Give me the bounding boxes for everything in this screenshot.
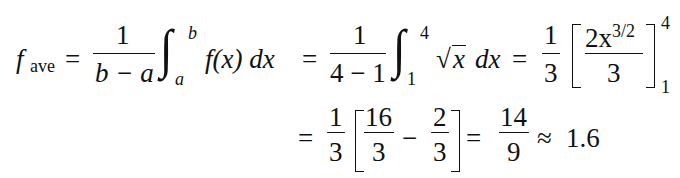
frac1-numerator: 1	[116, 22, 130, 49]
left-bracket	[355, 110, 364, 172]
frac-a-denominator: 3	[329, 139, 343, 166]
frac-d-numerator: 14	[500, 104, 527, 131]
eval-lower-limit: 1	[661, 78, 670, 96]
bracket-numerator: 2x3/2	[585, 22, 635, 52]
frac-c-denominator: 3	[433, 139, 447, 166]
integral-upper-limit: 4	[420, 24, 429, 42]
equals-sign: =	[466, 125, 481, 152]
frac-a-numerator: 1	[329, 104, 343, 131]
frac-b-numerator: 16	[365, 104, 392, 131]
frac2-bar	[330, 53, 386, 54]
integral-sign: ∫	[393, 22, 406, 76]
integral-lower-limit: 1	[407, 70, 416, 88]
frac1-bar	[93, 53, 155, 54]
frac-b-denominator: 3	[372, 139, 386, 166]
integrand: f(x) dx	[205, 46, 275, 73]
frac2-numerator: 1	[353, 22, 367, 49]
right-bracket	[646, 24, 655, 88]
bracket-fraction-bar	[585, 53, 643, 54]
frac-d-denominator: 9	[507, 139, 521, 166]
equals-sign: =	[298, 125, 313, 152]
frac-d-bar	[499, 132, 529, 133]
frac1-denominator: b − a	[95, 60, 154, 87]
frac2-denominator: 4 − 1	[330, 60, 386, 87]
frac-c-numerator: 2	[433, 104, 447, 131]
dx: dx	[475, 46, 500, 73]
integral-lower-limit: a	[175, 70, 184, 88]
bracket-denominator: 3	[607, 60, 621, 87]
eval-upper-limit: 4	[661, 14, 670, 32]
right-bracket	[451, 110, 460, 172]
integral-upper-limit: b	[188, 24, 197, 42]
f-symbol: f	[16, 46, 24, 73]
frac-a-bar	[327, 132, 345, 133]
frac3-denominator: 3	[544, 60, 558, 87]
frac-c-bar	[431, 132, 449, 133]
ave-subscript: ave	[30, 57, 55, 75]
approx-sign: ≈	[537, 125, 552, 152]
frac-b-bar	[364, 132, 394, 133]
equals-sign: =	[512, 46, 527, 73]
result-value: 1.6	[566, 125, 600, 152]
left-bracket	[572, 24, 581, 88]
coefficient: 2x	[585, 23, 612, 53]
radicand: x	[453, 46, 465, 73]
equals-sign: =	[65, 46, 80, 73]
integral-sign: ∫	[160, 22, 173, 76]
frac3-bar	[542, 53, 560, 54]
sqrt-symbol: √	[436, 46, 451, 73]
exponent: 3/2	[612, 21, 635, 41]
frac3-numerator: 1	[544, 22, 558, 49]
equals-sign: =	[302, 46, 317, 73]
minus-sign: −	[402, 125, 417, 152]
